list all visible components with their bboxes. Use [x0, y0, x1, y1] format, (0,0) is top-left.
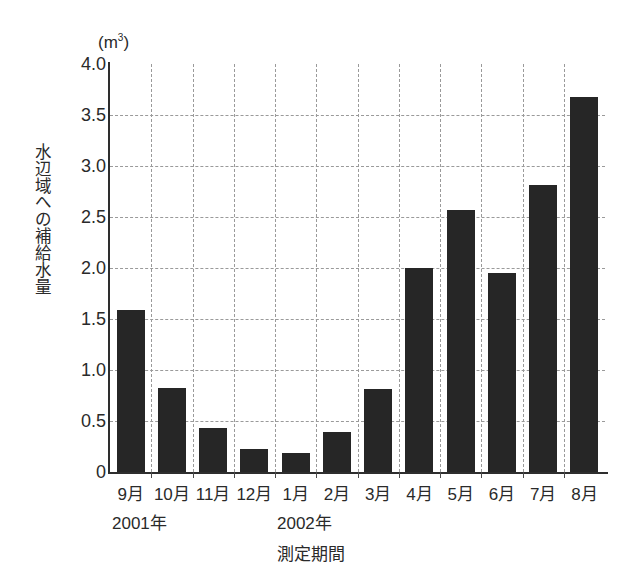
x-tick-label: 12月: [236, 480, 272, 505]
bar: [323, 432, 351, 472]
x-tick-label: 2月: [324, 480, 350, 505]
x-tick-label: 9月: [117, 480, 143, 505]
bar: [158, 388, 186, 472]
bar: [529, 185, 557, 472]
y-tick-label: 0.5: [58, 411, 106, 432]
x-tick-mark: [358, 472, 359, 478]
x-tick-mark: [399, 472, 400, 478]
x-tick-label: 4月: [406, 480, 432, 505]
bar: [117, 310, 145, 472]
bars-layer: [110, 64, 605, 472]
y-tick-label: 1.0: [58, 360, 106, 381]
bar: [488, 273, 516, 472]
bar-chart-figure: (m3) 水辺域への補給水量 00.51.01.52.02.53.03.54.0…: [0, 0, 622, 574]
bar: [199, 428, 227, 472]
y-tick-label: 3.5: [58, 105, 106, 126]
bar: [570, 97, 598, 472]
plot-area: [110, 64, 605, 472]
y-tick-label: 2.5: [58, 207, 106, 228]
unit-close-paren: ): [123, 33, 129, 52]
x-tick-mark: [564, 472, 565, 478]
x-tick-label: 10月: [154, 480, 190, 505]
x-tick-mark: [481, 472, 482, 478]
x-tick-mark: [234, 472, 235, 478]
x-tick-label: 7月: [530, 480, 556, 505]
x-tick-label: 3月: [365, 480, 391, 505]
x-tick-mark: [275, 472, 276, 478]
y-tick-label: 1.5: [58, 309, 106, 330]
year-group-label: 2002年: [277, 509, 332, 534]
y-axis-tick-labels: 00.51.01.52.02.53.03.54.0: [58, 0, 106, 574]
x-tick-label: 1月: [282, 480, 308, 505]
bar: [447, 210, 475, 472]
x-tick-mark: [523, 472, 524, 478]
x-tick-mark: [440, 472, 441, 478]
x-tick-mark: [193, 472, 194, 478]
year-group-label: 2001年: [112, 509, 167, 534]
x-axis-title: 測定期間: [0, 540, 622, 565]
y-tick-label: 2.0: [58, 258, 106, 279]
x-tick-label: 6月: [489, 480, 515, 505]
x-tick-label: 5月: [447, 480, 473, 505]
bar: [364, 389, 392, 472]
bar: [240, 449, 268, 472]
y-tick-label: 0: [58, 462, 106, 483]
y-tick-label: 4.0: [58, 54, 106, 75]
x-tick-mark: [316, 472, 317, 478]
x-tick-mark: [151, 472, 152, 478]
y-tick-label: 3.0: [58, 156, 106, 177]
y-axis-title: 水辺域への補給水量: [30, 144, 56, 295]
bar: [405, 268, 433, 472]
bar: [282, 453, 310, 472]
x-tick-label: 8月: [571, 480, 597, 505]
x-tick-label: 11月: [196, 480, 231, 505]
